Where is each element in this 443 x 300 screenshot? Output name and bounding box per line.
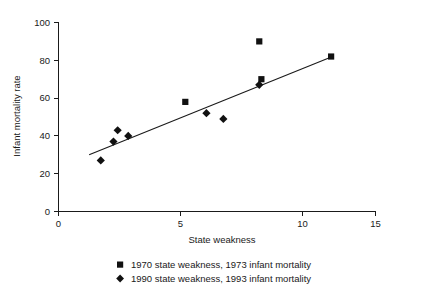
data-series-2 — [97, 81, 264, 165]
legend-label-1990: 1990 state weakness, 1993 infant mortali… — [131, 273, 311, 284]
data-point-square — [256, 38, 262, 44]
data-point-diamond — [202, 109, 210, 117]
x-axis-title: State weakness — [188, 234, 255, 245]
data-point-square — [328, 53, 334, 59]
y-axis-title: Infant mortality rate — [11, 75, 22, 156]
x-axis-ticks — [59, 212, 376, 217]
y-tick-label-0: 0 — [45, 206, 50, 217]
x-tick-label-10: 10 — [297, 218, 308, 229]
y-axis-tick-labels: 0 20 40 60 80 100 — [34, 17, 50, 217]
data-point-diamond — [109, 137, 117, 145]
x-tick-label-0: 0 — [56, 218, 61, 229]
plot-data-layer — [89, 38, 334, 164]
x-tick-label-5: 5 — [178, 218, 183, 229]
y-tick-label-20: 20 — [39, 168, 50, 179]
x-tick-label-15: 15 — [370, 218, 381, 229]
scatter-plot-figure: 0 20 40 60 80 100 0 5 10 15 Infant morta… — [0, 0, 443, 300]
data-point-square — [182, 99, 188, 105]
legend-label-1970: 1970 state weakness, 1973 infant mortali… — [131, 259, 311, 270]
trend-line — [89, 57, 330, 154]
y-axis-ticks — [54, 23, 58, 212]
data-point-diamond — [114, 126, 122, 134]
data-point-diamond — [97, 156, 105, 164]
legend-marker-square-icon — [117, 262, 123, 268]
chart-legend: 1970 state weakness, 1973 infant mortali… — [116, 259, 311, 284]
y-tick-label-60: 60 — [39, 92, 50, 103]
data-point-diamond — [219, 115, 227, 123]
y-tick-label-100: 100 — [34, 17, 50, 28]
legend-marker-diamond-icon — [116, 275, 124, 283]
chart-canvas: 0 20 40 60 80 100 0 5 10 15 Infant morta… — [0, 0, 443, 300]
x-axis-tick-labels: 0 5 10 15 — [56, 218, 381, 229]
y-tick-label-40: 40 — [39, 130, 50, 141]
data-series-1 — [182, 38, 334, 105]
data-point-diamond — [124, 132, 132, 140]
y-tick-label-80: 80 — [39, 55, 50, 66]
